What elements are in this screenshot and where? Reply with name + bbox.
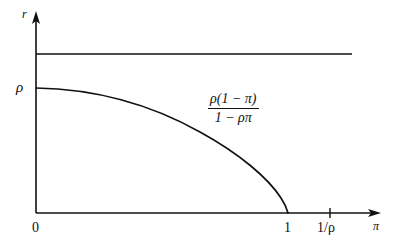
x-tick-label-one: 1 [284, 221, 291, 235]
y-tick-label-rho: ρ [16, 80, 23, 95]
equation-denominator: 1 − ρπ [208, 108, 259, 125]
x-tick-label-inverse-rho: 1/ρ [317, 221, 335, 235]
x-tick-label-zero: 0 [32, 221, 39, 235]
curve-equation-annotation: ρ(1 − π) 1 − ρπ [208, 92, 259, 125]
x-axis [36, 209, 381, 217]
equation-numerator: ρ(1 − π) [208, 92, 259, 108]
y-axis-label: r [22, 8, 27, 20]
y-axis [32, 11, 40, 213]
x-axis-label: π [373, 220, 379, 232]
figure-canvas: r π ρ 0 1 1/ρ ρ(1 − π) 1 − ρπ [0, 0, 399, 247]
plot-area [0, 0, 399, 247]
